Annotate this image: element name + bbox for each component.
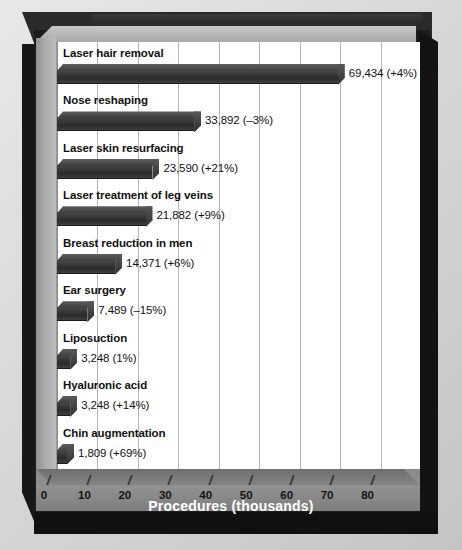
- category-label: Chin augmentation: [63, 427, 165, 439]
- bar-end-cap: [87, 301, 94, 322]
- bar-value-label: 1,809 (+69%): [78, 447, 146, 459]
- bar-value-label: 21,882 (+9%): [157, 209, 225, 221]
- chart-row: Laser hair removal69,434 (+4%): [57, 42, 420, 89]
- bar-top-face: [57, 159, 159, 166]
- chart-row: Laser skin resurfacing23,590 (+21%): [57, 137, 420, 184]
- bar-value-label: 3,248 (+14%): [81, 399, 149, 411]
- category-label: Liposuction: [63, 332, 127, 344]
- x-axis-title: Procedures (thousands): [0, 498, 462, 514]
- bar-end-cap: [338, 64, 345, 85]
- bar-value-label: 3,248 (1%): [81, 352, 136, 364]
- bar-top-face: [57, 206, 153, 213]
- bar-front-face: [57, 260, 115, 274]
- bar-top-face: [57, 111, 201, 118]
- bar-value-label: 23,590 (+21%): [163, 162, 237, 174]
- bar-front-face: [57, 165, 152, 179]
- chart-row: Nose reshaping33,892 (–3%): [57, 89, 420, 136]
- bar-front-face: [57, 450, 67, 464]
- bar-end-cap: [70, 396, 77, 417]
- bar[interactable]: [57, 444, 74, 465]
- bar[interactable]: [57, 159, 159, 180]
- chart-row: Chin augmentation1,809 (+69%): [57, 422, 420, 469]
- bar-front-face: [57, 70, 338, 84]
- frame-top-highlight: [92, 14, 422, 26]
- bar-value-label: 14,371 (+6%): [126, 257, 194, 269]
- chart-row: Laser treatment of leg veins21,882 (+9%): [57, 184, 420, 231]
- chart-row: Breast reduction in men14,371 (+6%): [57, 232, 420, 279]
- bar-front-face: [57, 212, 146, 226]
- category-label: Laser treatment of leg veins: [63, 189, 213, 201]
- category-label: Hyaluronic acid: [63, 379, 147, 391]
- bar-top-face: [57, 64, 345, 71]
- bar[interactable]: [57, 396, 77, 417]
- plot-assembly: Laser hair removal69,434 (+4%)Nose resha…: [36, 26, 426, 516]
- bar[interactable]: [57, 206, 153, 227]
- bar[interactable]: [57, 111, 201, 132]
- bar-end-cap: [152, 159, 159, 180]
- bar-end-cap: [146, 206, 153, 227]
- category-label: Laser skin resurfacing: [63, 142, 184, 154]
- bar-end-cap: [70, 349, 77, 370]
- category-label: Laser hair removal: [63, 47, 163, 59]
- bar-top-face: [57, 254, 122, 261]
- plot-area: Laser hair removal69,434 (+4%)Nose resha…: [56, 42, 420, 469]
- category-label: Breast reduction in men: [63, 237, 192, 249]
- chart-row: Liposuction3,248 (1%): [57, 327, 420, 374]
- chart-row: Ear surgery7,489 (–15%): [57, 279, 420, 326]
- bar-front-face: [57, 117, 194, 131]
- bar[interactable]: [57, 349, 77, 370]
- bar-value-label: 69,434 (+4%): [349, 67, 417, 79]
- category-label: Ear surgery: [63, 284, 126, 296]
- axis-floor-bevel: [36, 469, 420, 485]
- category-label: Nose reshaping: [63, 94, 148, 106]
- plot-left-wall: [36, 38, 56, 496]
- bar-value-label: 33,892 (–3%): [205, 114, 273, 126]
- bar-end-cap: [194, 111, 201, 132]
- bar[interactable]: [57, 64, 345, 85]
- bar-front-face: [57, 402, 70, 416]
- plot-top-lip: [36, 26, 416, 42]
- bar-front-face: [57, 355, 70, 369]
- bar-value-label: 7,489 (–15%): [98, 304, 166, 316]
- bar-front-face: [57, 307, 87, 321]
- chart-row: Hyaluronic acid3,248 (+14%): [57, 374, 420, 421]
- chart-figure: Laser hair removal69,434 (+4%)Nose resha…: [0, 0, 462, 550]
- bar-end-cap: [115, 254, 122, 275]
- bar-end-cap: [67, 444, 74, 465]
- bar[interactable]: [57, 254, 122, 275]
- bar[interactable]: [57, 301, 94, 322]
